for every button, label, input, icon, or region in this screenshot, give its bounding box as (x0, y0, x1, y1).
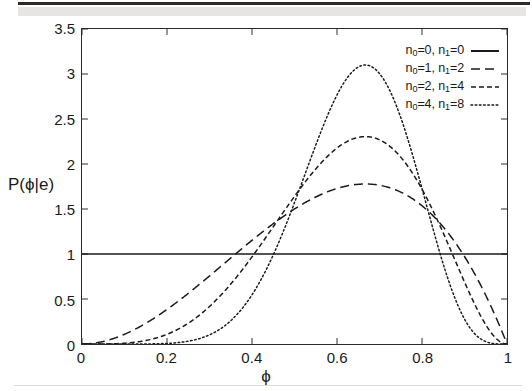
legend-item-label: n0=1, n1=2 (406, 62, 464, 75)
y-tick-label: 3 (67, 66, 75, 81)
y-tick-label: 3.5 (54, 21, 75, 36)
legend-line-sample (470, 45, 500, 57)
legend-item-label: n0=4, n1=8 (406, 98, 464, 111)
y-tick-label: 0.5 (54, 293, 75, 308)
legend-item: n0=2, n1=4 (368, 78, 500, 95)
y-axis-title: P(ϕ|e) (8, 176, 54, 194)
y-tick-label: 1.5 (54, 202, 75, 217)
y-tick-label: 1 (67, 247, 75, 262)
x-tick-label: 0.8 (412, 350, 433, 365)
y-axis-tick-labels: 00.511.522.533.5 (30, 0, 75, 391)
chart-figure: 00.511.522.533.5 00.20.40.60.81 P(ϕ|e) ϕ… (0, 0, 532, 391)
x-tick-label: 0.4 (241, 350, 262, 365)
x-tick-label: 0 (77, 350, 85, 365)
x-tick-label: 0.6 (327, 350, 348, 365)
y-tick-label: 2 (67, 157, 75, 172)
x-tick-label: 1 (504, 350, 512, 365)
legend-line-sample (470, 81, 500, 93)
legend-item: n0=4, n1=8 (368, 96, 500, 113)
y-tick-label: 2.5 (54, 112, 75, 127)
x-tick-label: 0.2 (156, 350, 177, 365)
legend-item: n0=1, n1=2 (368, 60, 500, 77)
chart-legend: n0=0, n1=0n0=1, n1=2n0=2, n1=4n0=4, n1=8 (368, 42, 500, 114)
legend-item-label: n0=2, n1=4 (406, 80, 464, 93)
x-axis-title: ϕ (0, 368, 532, 386)
legend-item-label: n0=0, n1=0 (406, 44, 464, 57)
legend-line-sample (470, 63, 500, 75)
legend-line-sample (470, 99, 500, 111)
series-line-1 (82, 184, 507, 344)
legend-item: n0=0, n1=0 (368, 42, 500, 59)
series-line-2 (82, 137, 507, 344)
